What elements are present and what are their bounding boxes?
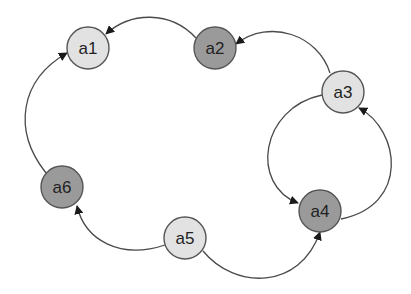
- node-a5: a5: [164, 217, 206, 259]
- node-a6: a6: [41, 166, 83, 208]
- edge-a5-to-a6: [77, 206, 165, 250]
- node-label-a3: a3: [334, 83, 353, 102]
- edge-a2-to-a1: [106, 17, 196, 38]
- node-a4: a4: [299, 190, 341, 232]
- edge-a4-to-a3: [341, 108, 391, 219]
- node-a3: a3: [322, 71, 364, 113]
- node-a2: a2: [194, 27, 236, 69]
- edge-a3-to-a2: [236, 32, 330, 73]
- node-label-a6: a6: [53, 178, 72, 197]
- node-a1: a1: [67, 27, 109, 69]
- node-label-a4: a4: [311, 202, 330, 221]
- node-label-a2: a2: [206, 39, 225, 58]
- edge-a3-to-a4: [268, 95, 322, 203]
- edge-a6-to-a1: [25, 53, 67, 173]
- graph-diagram: a1 a2 a3 a4 a5 a6: [0, 0, 411, 294]
- node-label-a1: a1: [79, 39, 98, 58]
- edge-a5-to-a4: [203, 232, 320, 278]
- node-label-a5: a5: [176, 229, 195, 248]
- graph-svg: a1 a2 a3 a4 a5 a6: [0, 0, 411, 294]
